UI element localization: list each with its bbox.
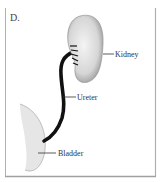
ureter-label: Ureter — [77, 93, 98, 102]
bladder-shape — [20, 104, 45, 171]
bladder-label: Bladder — [58, 149, 84, 158]
diagram-canvas: D. Kidney Ureter Bladder — [0, 0, 161, 182]
ureter-tube — [44, 52, 73, 141]
kidney-label: Kidney — [115, 50, 139, 59]
panel-label: D. — [10, 12, 20, 23]
kidney-shape — [68, 15, 103, 82]
urinary-system-diagram: D. Kidney Ureter Bladder — [0, 0, 161, 182]
